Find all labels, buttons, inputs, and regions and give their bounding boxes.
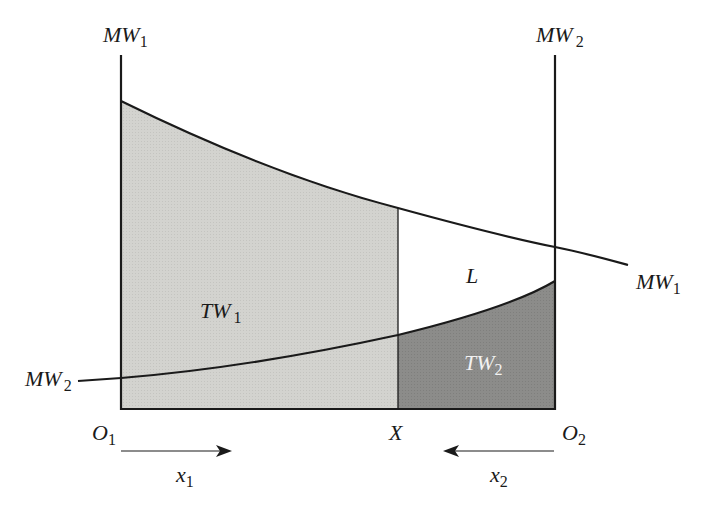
tw1-area [121, 101, 398, 409]
mw1-axis-label: MW1 [102, 22, 148, 50]
x2-label: x2 [489, 462, 508, 490]
x2-arrow [443, 445, 554, 457]
origin2-label: O2 [562, 420, 586, 448]
mw1-curve-label: MW1 [635, 269, 681, 297]
x1-label: x1 [175, 462, 194, 490]
wage-diagram: MW1 MW2 MW1 MW2 TW1 TW2 L O1 X O2 x1 x2 [0, 0, 704, 511]
origin1-label: O1 [92, 420, 116, 448]
loss-label: L [465, 263, 478, 288]
tw2-area [398, 281, 555, 409]
allocation-point-label: X [388, 420, 404, 445]
mw2-axis-label: MW2 [535, 22, 584, 50]
x1-arrow [121, 445, 232, 457]
mw2-curve-label: MW2 [24, 366, 72, 394]
